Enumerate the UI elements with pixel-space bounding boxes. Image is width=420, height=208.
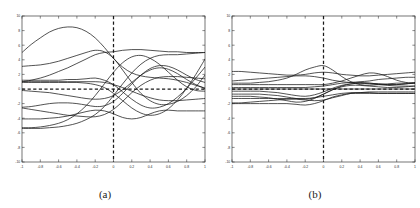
x-tick-label: -0.2	[302, 165, 308, 169]
x-tick-label: 1	[204, 165, 206, 169]
x-tick-label: -0.6	[56, 165, 62, 169]
x-tick-label: -0.2	[92, 165, 98, 169]
x-tick-label: 0.6	[166, 165, 171, 169]
y-tick-label: 2	[228, 73, 230, 77]
x-tick-label: 0.8	[184, 165, 189, 169]
y-tick-label: -8	[17, 146, 20, 150]
plot-b-content: -1-0.8-0.6-0.4-0.200.20.40.60.81-10-8-6-…	[225, 14, 416, 169]
y-tick-label: 2	[18, 73, 20, 77]
y-tick-label: -2	[227, 102, 230, 106]
x-tick-label: 0.2	[129, 165, 134, 169]
x-tick-label: -0.4	[284, 165, 290, 169]
y-tick-label: 4	[18, 58, 20, 62]
x-tick-label: -0.4	[74, 165, 80, 169]
caption-a: (a)	[0, 188, 210, 200]
y-tick-label: -10	[15, 160, 20, 164]
y-tick-label: 6	[18, 44, 20, 48]
y-tick-label: 0	[228, 87, 230, 91]
panel-a: -1-0.8-0.6-0.4-0.200.20.40.60.81-10-8-6-…	[0, 0, 210, 208]
caption-b: (b)	[210, 188, 420, 200]
y-tick-label: -10	[225, 160, 230, 164]
y-tick-label: -6	[227, 131, 230, 135]
plot-b-svg: -1-0.8-0.6-0.4-0.200.20.40.60.81-10-8-6-…	[210, 0, 420, 208]
x-tick-label: 1	[414, 165, 416, 169]
plot-a-content: -1-0.8-0.6-0.4-0.200.20.40.60.81-10-8-6-…	[15, 14, 206, 169]
panel-b: -1-0.8-0.6-0.4-0.200.20.40.60.81-10-8-6-…	[210, 0, 420, 208]
x-tick-label: -0.6	[266, 165, 272, 169]
y-tick-label: 8	[18, 29, 20, 33]
x-tick-label: 0.4	[358, 165, 363, 169]
y-tick-label: 6	[228, 44, 230, 48]
x-tick-label: 0.2	[339, 165, 344, 169]
y-tick-label: 10	[226, 14, 230, 18]
x-tick-label: 0	[113, 165, 115, 169]
x-tick-label: 0.4	[148, 165, 153, 169]
y-tick-label: 0	[18, 87, 20, 91]
y-tick-label: 8	[228, 29, 230, 33]
x-tick-label: 0	[323, 165, 325, 169]
figure-container: -1-0.8-0.6-0.4-0.200.20.40.60.81-10-8-6-…	[0, 0, 420, 208]
plot-a-svg: -1-0.8-0.6-0.4-0.200.20.40.60.81-10-8-6-…	[0, 0, 210, 208]
y-tick-label: -4	[227, 117, 230, 121]
x-tick-label: 0.8	[394, 165, 399, 169]
y-tick-label: -4	[17, 117, 20, 121]
x-tick-label: -1	[20, 165, 23, 169]
x-tick-label: 0.6	[376, 165, 381, 169]
x-tick-label: -0.8	[247, 165, 253, 169]
y-tick-label: -6	[17, 131, 20, 135]
x-tick-label: -0.8	[37, 165, 43, 169]
y-tick-label: 10	[16, 14, 20, 18]
x-tick-label: -1	[230, 165, 233, 169]
y-tick-label: -8	[227, 146, 230, 150]
y-tick-label: -2	[17, 102, 20, 106]
y-tick-label: 4	[228, 58, 230, 62]
